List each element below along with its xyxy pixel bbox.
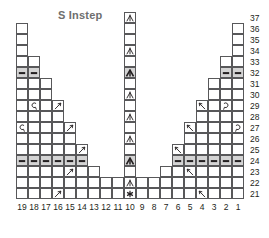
chart-cell-empty [160, 45, 172, 56]
k2tog-icon [77, 145, 87, 154]
chart-cell-empty [64, 12, 76, 23]
chart-cell-empty [160, 155, 172, 166]
chart-cell-empty [52, 23, 64, 34]
chart-cell-empty [100, 45, 112, 56]
chart-cell [232, 166, 244, 177]
chart-cell [124, 45, 136, 56]
ssk-icon [185, 167, 195, 176]
row-label: 25 [250, 145, 259, 155]
chart-cell [28, 100, 40, 111]
chart-cell-empty [52, 78, 64, 89]
chart-cell-empty [148, 155, 160, 166]
row-label: 26 [250, 134, 259, 144]
chart-cell [220, 89, 232, 100]
chart-cell-empty [100, 23, 112, 34]
purl-icon [221, 68, 231, 77]
chart-cell-empty [112, 122, 124, 133]
chart-cell [232, 100, 244, 111]
chart-cell [124, 111, 136, 122]
purl-icon [53, 156, 63, 165]
chart-cell-empty [88, 89, 100, 100]
purl-icon [17, 156, 27, 165]
chart-cell-empty [52, 67, 64, 78]
chart-cell [52, 122, 64, 133]
chart-cell-empty [112, 45, 124, 56]
chart-cell-empty [64, 111, 76, 122]
chart-cell [76, 177, 88, 188]
chart-cell-empty [172, 78, 184, 89]
chart-cell [232, 111, 244, 122]
column-label: 2 [220, 202, 232, 212]
ssk-icon [173, 145, 183, 154]
row-label: 27 [250, 123, 259, 133]
chart-cell [16, 155, 28, 166]
chart-cell-empty [28, 23, 40, 34]
chart-cell-empty [148, 23, 160, 34]
chart-cell [52, 100, 64, 111]
chart-cell [124, 166, 136, 177]
chart-cell [232, 177, 244, 188]
chart-cell [40, 89, 52, 100]
centered-double-decrease-bold-icon [125, 68, 135, 77]
chart-cell-empty [172, 133, 184, 144]
chart-cell-empty [64, 67, 76, 78]
chart-cell-empty [100, 144, 112, 155]
chart-cell-empty [64, 56, 76, 67]
column-label: 7 [160, 202, 172, 212]
chart-cell-empty [64, 89, 76, 100]
chart-cell-empty [220, 23, 232, 34]
chart-cell-empty [172, 100, 184, 111]
purl-icon [209, 156, 219, 165]
chart-cell [76, 188, 88, 199]
chart-cell [16, 56, 28, 67]
chart-cell-empty [196, 23, 208, 34]
knitting-chart: S Instep 3736353433323130292827262524232… [0, 0, 269, 238]
row-label: 31 [250, 79, 259, 89]
chart-cell [76, 144, 88, 155]
chart-cell [208, 166, 220, 177]
k2tog-icon [65, 123, 75, 132]
chart-cell [64, 188, 76, 199]
chart-cell [40, 155, 52, 166]
row-label: 34 [250, 46, 259, 56]
chart-cell [208, 177, 220, 188]
chart-cell-empty [100, 100, 112, 111]
chart-cell-empty [136, 155, 148, 166]
chart-cell-empty [88, 78, 100, 89]
chart-cell-empty [28, 12, 40, 23]
chart-cell-empty [136, 166, 148, 177]
chart-cell-empty [112, 78, 124, 89]
chart-cell-empty [112, 56, 124, 67]
chart-cell-empty [172, 45, 184, 56]
chart-cell [220, 133, 232, 144]
chart-cell [196, 100, 208, 111]
chart-cell [172, 177, 184, 188]
chart-cell-empty [136, 111, 148, 122]
chart-cell [16, 188, 28, 199]
chart-cell [148, 188, 160, 199]
chart-cell-empty [232, 12, 244, 23]
chart-cell [232, 89, 244, 100]
chart-cell-empty [76, 89, 88, 100]
yarn-over-right-icon [221, 101, 231, 110]
centered-double-decrease-bold-icon [125, 156, 135, 165]
chart-cell-empty [148, 122, 160, 133]
chart-cell [160, 166, 172, 177]
chart-cell [220, 122, 232, 133]
chart-cell [196, 166, 208, 177]
purl-icon [185, 156, 195, 165]
chart-cell-empty [40, 23, 52, 34]
chart-cell-empty [88, 56, 100, 67]
purl-icon [41, 156, 51, 165]
chart-cell-empty [196, 56, 208, 67]
chart-cell [16, 111, 28, 122]
chart-cell-empty [136, 34, 148, 45]
chart-cell-empty [88, 67, 100, 78]
chart-cell-empty [184, 34, 196, 45]
purl-icon [197, 156, 207, 165]
chart-cell [232, 67, 244, 78]
chart-cell-empty [196, 12, 208, 23]
chart-cell [124, 89, 136, 100]
chart-cell-empty [64, 100, 76, 111]
chart-cell [16, 34, 28, 45]
